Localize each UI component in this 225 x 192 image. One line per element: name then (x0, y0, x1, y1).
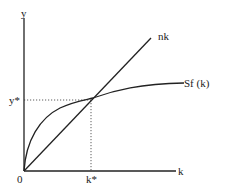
y-axis-label: y (21, 8, 27, 19)
x-axis-label: k (178, 166, 184, 177)
k-star-label: k* (86, 174, 97, 185)
solow-diagram (0, 0, 225, 192)
nk-line (24, 38, 151, 171)
sf-k-label: Sf (k) (184, 78, 209, 89)
origin-label: 0 (17, 174, 23, 185)
y-star-label: y* (9, 95, 20, 106)
sf-k-curve (24, 83, 184, 171)
nk-label: nk (158, 31, 169, 42)
